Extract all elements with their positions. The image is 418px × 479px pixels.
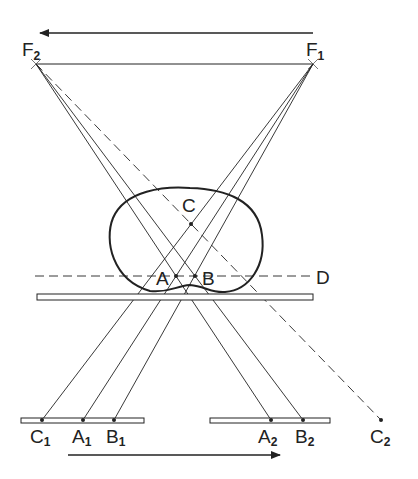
label-b: B [202,268,215,289]
label-c1: C1 [30,426,51,449]
label-c: C [182,195,196,216]
point-a-marker [174,274,178,278]
point-b-marker [193,274,197,278]
table-plate [37,294,313,300]
label-f2: F2 [22,39,41,63]
label-a: A [156,268,169,289]
label-a1: A1 [72,426,92,449]
point-c-marker [189,222,193,226]
label-b2: B2 [295,426,315,449]
rays-from-f1 [42,64,313,420]
ray-f2-to-c2-dashed [36,64,381,420]
label-c2: C2 [370,426,391,449]
label-a2: A2 [258,426,278,449]
label-b1: B1 [106,426,126,449]
label-d: D [316,267,330,288]
label-f1: F1 [306,39,325,63]
tomography-diagram: F2 F1 C A B D C1 A1 B1 A2 B2 C2 [0,0,418,479]
